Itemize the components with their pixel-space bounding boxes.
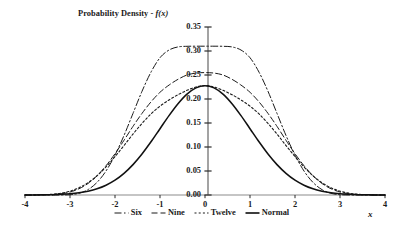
curve-six bbox=[25, 46, 385, 195]
y-axis-tick-label: 0.05 bbox=[175, 167, 201, 175]
legend-label: Normal bbox=[262, 209, 289, 217]
legend-line-swatch bbox=[245, 209, 260, 217]
y-axis-tick-label: 0.25 bbox=[175, 71, 201, 79]
legend-label: Nine bbox=[168, 209, 185, 217]
curve-twelve bbox=[25, 86, 385, 195]
legend-label: Twelve bbox=[211, 209, 236, 217]
y-axis-tick-label: 0.30 bbox=[175, 47, 201, 55]
curve-normal bbox=[25, 86, 385, 195]
legend-entry-nine[interactable]: Nine bbox=[151, 209, 185, 217]
curve-nine bbox=[25, 73, 385, 195]
legend-line-swatch bbox=[114, 209, 129, 217]
y-axis-tick-label: 0.35 bbox=[175, 23, 201, 31]
y-axis-tick-label: 0.15 bbox=[175, 119, 201, 127]
probability-density-chart: Probability Density - f(x) 0.000.050.100… bbox=[0, 0, 403, 237]
legend-entry-normal[interactable]: Normal bbox=[245, 209, 289, 217]
legend-line-swatch bbox=[194, 209, 209, 217]
y-axis-tick-label: 0.20 bbox=[175, 95, 201, 103]
legend-line-swatch bbox=[151, 209, 166, 217]
x-axis-tick-label: -4 bbox=[16, 201, 34, 209]
legend-entry-twelve[interactable]: Twelve bbox=[194, 209, 236, 217]
x-axis-tick-label: -3 bbox=[61, 201, 79, 209]
x-axis-tick-label: 3 bbox=[331, 201, 349, 209]
legend-entry-six[interactable]: Six bbox=[114, 209, 142, 217]
x-axis-label: x bbox=[368, 210, 373, 219]
y-axis-tick-label: 0.00 bbox=[175, 191, 201, 199]
y-axis-tick-label: 0.10 bbox=[175, 143, 201, 151]
legend-label: Six bbox=[131, 209, 142, 217]
x-axis-tick-label: 4 bbox=[376, 201, 394, 209]
